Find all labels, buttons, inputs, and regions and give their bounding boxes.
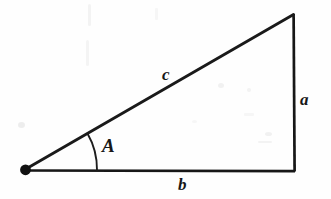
- side-b-label: b: [178, 176, 187, 193]
- angle-arc: [88, 134, 98, 171]
- side-a-label: a: [300, 91, 309, 108]
- vertex-dot: [20, 164, 31, 175]
- side-c-label: c: [162, 66, 170, 83]
- triangle-diagram: [0, 0, 331, 199]
- side-a-line: [294, 14, 295, 172]
- figure-canvas: c a b A: [0, 0, 331, 199]
- side-b-line: [25, 171, 295, 172]
- angle-a-label: A: [102, 136, 115, 155]
- side-c-line: [25, 15, 294, 170]
